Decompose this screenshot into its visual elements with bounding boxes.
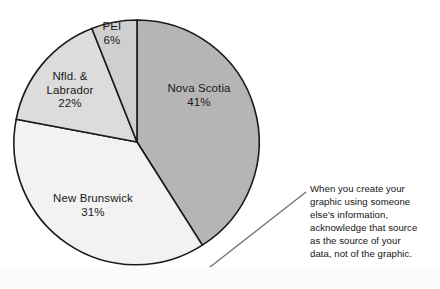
pie-label-nfld-labrador-name-line1: Nfld. &	[52, 70, 87, 82]
pie-label-pei-percent: 6%	[84, 34, 140, 48]
pie-label-nfld-labrador-percent: 22%	[18, 97, 122, 111]
annotation-line-4: acknowledge that source	[310, 221, 436, 234]
annotation-text: When you create your graphic using someo…	[310, 182, 436, 260]
pie-label-nova-scotia-name: Nova Scotia	[167, 82, 230, 94]
pie-label-nfld-labrador: Nfld. & Labrador 22%	[18, 70, 122, 111]
annotation-line-6: data, not of the graphic.	[310, 247, 436, 260]
pie-label-nova-scotia-percent: 41%	[147, 96, 251, 110]
annotation-line-1: When you create your	[310, 182, 436, 195]
pie-label-pei-name: PEI	[103, 20, 122, 32]
pie-label-new-brunswick-percent: 31%	[30, 206, 156, 220]
pie-label-new-brunswick: New Brunswick 31%	[30, 192, 156, 219]
pie-label-nfld-labrador-name-line2: Labrador	[18, 84, 122, 98]
annotation-line-5: as the source of your	[310, 234, 436, 247]
pie-label-new-brunswick-name: New Brunswick	[53, 192, 133, 204]
pie-label-nova-scotia: Nova Scotia 41%	[147, 82, 251, 109]
annotation-line-2: graphic using someone	[310, 195, 436, 208]
annotation-line-3: else’s information,	[310, 208, 436, 221]
pie-chart-figure: Nova Scotia 41% New Brunswick 31% Nfld. …	[0, 0, 440, 289]
pie-label-pei: PEI 6%	[84, 20, 140, 47]
